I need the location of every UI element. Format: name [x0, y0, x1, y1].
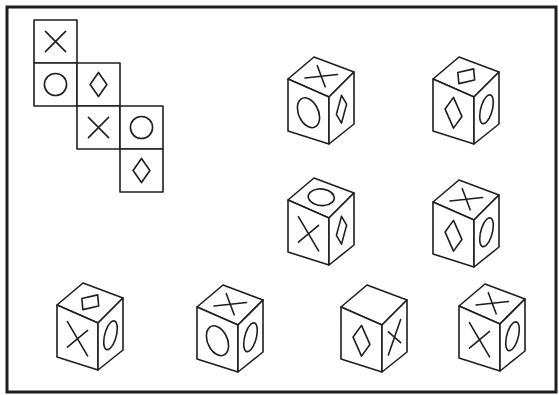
net-face-1: [34, 20, 77, 63]
net-cell: [34, 63, 77, 106]
net-face-6: [120, 149, 163, 192]
net-cell: [120, 149, 163, 192]
net-cell: [120, 106, 163, 149]
cube-puzzle-figure: [0, 0, 559, 395]
cube-option-8[interactable]: [459, 284, 525, 371]
net-face-5: [120, 106, 163, 149]
net-face-4: [77, 106, 120, 149]
cube-option-3[interactable]: [288, 178, 354, 265]
cube-option-7[interactable]: [341, 285, 407, 372]
puzzle-canvas: [0, 0, 559, 395]
net-face-2: [34, 63, 77, 106]
cube-option-4[interactable]: [433, 180, 499, 267]
cube-option-6[interactable]: [197, 285, 263, 372]
cube-option-2[interactable]: [433, 57, 499, 144]
cube-option-1[interactable]: [288, 57, 354, 144]
cube-option-5[interactable]: [57, 283, 123, 370]
net-face-3: [77, 63, 120, 106]
net-cell: [77, 63, 120, 106]
